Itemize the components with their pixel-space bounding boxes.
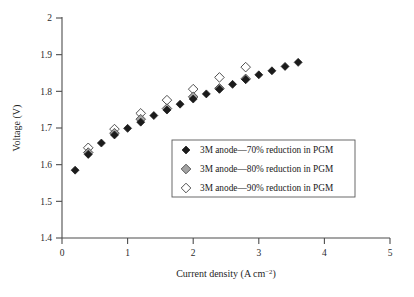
x-tick-label: 2	[191, 248, 196, 258]
y-tick-label: 1.5	[40, 197, 52, 207]
legend-label: 3M anode—90% reduction in PGM	[200, 183, 333, 193]
chart-legend: 3M anode—70% reduction in PGM3M anode—80…	[172, 140, 355, 197]
x-tick-label: 5	[388, 248, 393, 258]
x-axis-title: Current density (A cm−2)	[176, 268, 276, 280]
chart-figure: 1.41.51.61.71.81.92 012345 3M anode—70% …	[0, 0, 414, 297]
x-tick-label: 1	[125, 248, 130, 258]
legend-label: 3M anode—80% reduction in PGM	[200, 164, 333, 174]
y-tick-label: 2	[47, 13, 52, 23]
x-axis-title-main: Current density (A cm	[176, 268, 265, 280]
x-axis-title-end: )	[273, 268, 276, 280]
legend-items: 3M anode—70% reduction in PGM3M anode—80…	[181, 145, 333, 193]
legend-label: 3M anode—70% reduction in PGM	[200, 145, 333, 155]
y-tick-label: 1.8	[40, 87, 52, 97]
y-tick-label: 1.9	[40, 50, 52, 60]
y-tick-label: 1.4	[40, 233, 52, 243]
y-tick-label: 1.7	[40, 123, 52, 133]
x-tick-label: 3	[256, 248, 261, 258]
x-tick-label: 0	[60, 248, 65, 258]
x-tick-label: 4	[322, 248, 327, 258]
y-axis-title: Voltage (V)	[11, 105, 23, 152]
chart-svg: 1.41.51.61.71.81.92 012345 3M anode—70% …	[0, 0, 414, 297]
y-tick-label: 1.6	[40, 160, 52, 170]
